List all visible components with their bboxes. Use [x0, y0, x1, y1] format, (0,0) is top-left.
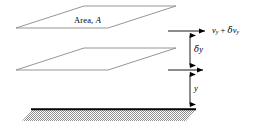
delta-y-symbol: y — [199, 44, 203, 54]
velocity-operator: + — [221, 25, 226, 35]
y-height-symbol: y — [194, 83, 198, 93]
velocity-subscript-1: y — [216, 29, 219, 35]
figure-container: Area, A vy + δvy δy y — [0, 0, 257, 129]
diagram-canvas — [0, 0, 257, 129]
area-label-symbol: A — [96, 15, 101, 25]
area-label: Area, A — [74, 16, 101, 25]
delta-y-label: δy — [194, 45, 203, 54]
area-label-prefix: Area, — [74, 15, 93, 25]
lower-fluid-layer-plate — [16, 48, 176, 70]
velocity-subscript-2: y — [236, 29, 239, 35]
y-height-label: y — [194, 84, 198, 93]
stationary-wall-hatching — [22, 110, 196, 121]
velocity-label: vy + δvy — [212, 26, 239, 35]
